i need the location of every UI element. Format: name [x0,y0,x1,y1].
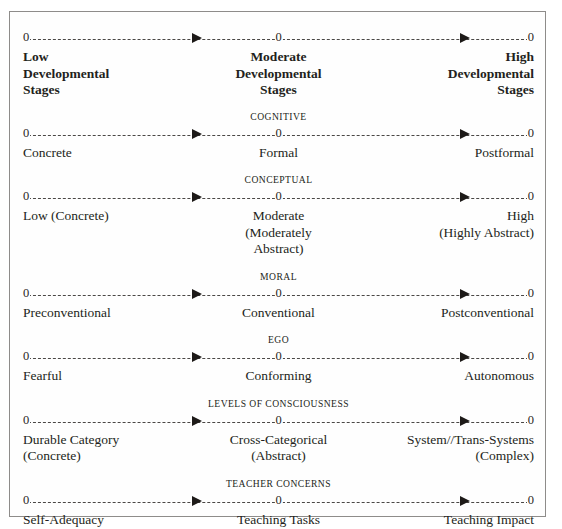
arrowhead-right-icon [192,416,202,426]
axis-moral: 0 0 0 [23,288,534,302]
spacer [23,465,534,478]
arrowhead-right-icon [192,496,202,506]
label-line: Conforming [197,368,359,385]
arrowhead-right-icon [460,496,470,506]
label-line: Teaching Tasks [197,512,359,529]
axis-node-left: 0 [22,126,30,140]
label-line: System//Trans-Systems [370,432,534,449]
axis-node-right: 0 [527,286,535,300]
label-ego-right: Autonomous [364,368,534,385]
axis-node-right: 0 [527,493,535,507]
label-line: Self-Adequacy [23,512,187,529]
figure-content: 0 0 0 Low Developmental Stages Moderate … [23,12,534,516]
axis-node-middle: 0 [274,189,282,203]
label-line: (Abstract) [197,448,359,465]
arrowhead-right-icon [460,33,470,43]
arrowhead-right-icon [460,129,470,139]
axis-node-left: 0 [22,30,30,44]
axis-node-middle: 0 [274,30,282,44]
axis-node-middle: 0 [274,349,282,363]
axis-node-middle: 0 [274,126,282,140]
label-line: Teaching Impact [370,512,534,529]
label-conceptual-right: High (Highly Abstract) [364,208,534,258]
arrowhead-right-icon [460,289,470,299]
label-levels-middle: Cross-Categorical (Abstract) [193,432,363,465]
labels-cognitive: Concrete Formal Postformal [23,145,534,162]
header-label-low: Low Developmental Stages [23,49,193,99]
axis-node-middle: 0 [274,286,282,300]
label-levels-right: System//Trans-Systems (Complex) [364,432,534,465]
spacer [23,161,534,174]
arrowhead-right-icon [460,192,470,202]
axis-ego: 0 0 0 [23,351,534,365]
section-title-teacher-concerns: TEACHER CONCERNS [23,478,534,490]
spacer-top [23,12,534,32]
arrowhead-right-icon [192,352,202,362]
label-line: High [370,208,534,225]
header-high-line-2: Developmental [370,66,534,83]
label-line: Conventional [197,305,359,322]
header-moderate-line-1: Moderate [197,49,359,66]
label-line: Durable Category [23,432,187,449]
label-conceptual-left: Low (Concrete) [23,208,193,258]
spacer [23,258,534,271]
label-line: Abstract) [197,241,359,258]
label-ego-left: Fearful [23,368,193,385]
labels-conceptual: Low (Concrete) Moderate (Moderately Abst… [23,208,534,258]
arrowhead-right-icon [192,129,202,139]
axis-header-row: 0 0 0 [23,32,534,46]
label-line: (Concrete) [23,448,187,465]
section-title-levels-of-consciousness: LEVELS OF CONSCIOUSNESS [23,398,534,410]
axis-teacher-concerns: 0 0 0 [23,495,534,509]
arrowhead-right-icon [192,192,202,202]
axis-node-right: 0 [527,30,535,44]
axis-node-right: 0 [527,349,535,363]
axis-levels-of-consciousness: 0 0 0 [23,415,534,429]
label-ego-middle: Conforming [193,368,363,385]
axis-node-middle: 0 [274,493,282,507]
label-moral-middle: Conventional [193,305,363,322]
axis-conceptual: 0 0 0 [23,191,534,205]
header-low-line-3: Stages [23,82,187,99]
arrowhead-right-icon [460,416,470,426]
label-line: Fearful [23,368,187,385]
axis-node-right: 0 [527,413,535,427]
header-label-moderate: Moderate Developmental Stages [193,49,363,99]
label-cognitive-middle: Formal [193,145,363,162]
axis-node-left: 0 [22,286,30,300]
label-line: Preconventional [23,305,187,322]
axis-node-left: 0 [22,493,30,507]
section-title-moral: MORAL [23,271,534,283]
label-cognitive-left: Concrete [23,145,193,162]
label-levels-left: Durable Category (Concrete) [23,432,193,465]
header-label-high: High Developmental Stages [364,49,534,99]
label-teacher-middle: Teaching Tasks [193,512,363,529]
label-line: Autonomous [370,368,534,385]
developmental-continuum-figure: 0 0 0 Low Developmental Stages Moderate … [9,11,546,517]
axis-node-middle: 0 [274,413,282,427]
label-line: Moderate [197,208,359,225]
label-line: Low (Concrete) [23,208,187,225]
label-line: Cross-Categorical [197,432,359,449]
labels-teacher-concerns: Self-Adequacy Teaching Tasks Teaching Im… [23,512,534,529]
axis-cognitive: 0 0 0 [23,128,534,142]
label-teacher-left: Self-Adequacy [23,512,193,529]
axis-node-left: 0 [22,189,30,203]
label-line: Concrete [23,145,187,162]
header-low-line-1: Low [23,49,187,66]
label-line: (Moderately [197,225,359,242]
axis-node-left: 0 [22,349,30,363]
axis-node-left: 0 [22,413,30,427]
axis-node-right: 0 [527,126,535,140]
header-high-line-3: Stages [370,82,534,99]
labels-moral: Preconventional Conventional Postconvent… [23,305,534,322]
label-conceptual-middle: Moderate (Moderately Abstract) [193,208,363,258]
label-line: (Highly Abstract) [370,225,534,242]
section-title-conceptual: CONCEPTUAL [23,174,534,186]
label-teacher-right: Teaching Impact [364,512,534,529]
label-moral-left: Preconventional [23,305,193,322]
label-cognitive-right: Postformal [364,145,534,162]
arrowhead-right-icon [460,352,470,362]
label-moral-right: Postconventional [364,305,534,322]
spacer [23,99,534,111]
